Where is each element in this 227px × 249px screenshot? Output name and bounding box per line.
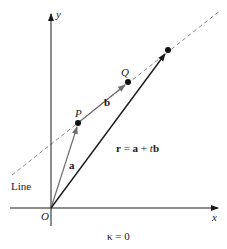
- point-p: [75, 120, 81, 126]
- origin-label: O: [41, 211, 49, 222]
- point-q: [125, 79, 131, 85]
- diagram-canvas: [0, 0, 227, 249]
- line-label: Line: [11, 181, 31, 192]
- eq-equals: =: [121, 142, 133, 154]
- vector-a-label: a: [69, 160, 75, 171]
- point-p-label: P: [75, 108, 82, 119]
- point-q-label: Q: [121, 67, 129, 78]
- eq-plus: +: [138, 142, 150, 154]
- x-axis-label: x: [212, 212, 217, 223]
- eq-b: b: [153, 142, 159, 154]
- caption-kappa: κ = 0: [107, 231, 130, 242]
- point-r: [165, 47, 171, 53]
- vector-r-equation: r = a + tb: [116, 143, 159, 154]
- y-axis-label: y: [56, 9, 61, 20]
- vector-b-label: b: [104, 97, 110, 108]
